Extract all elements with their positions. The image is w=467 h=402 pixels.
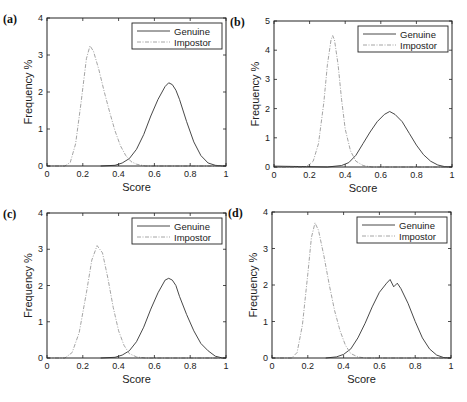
subplot-c: 00.20.40.60.8101234ScoreFrequency %(c)Ge…	[3, 207, 229, 385]
y-tick-label: 1	[265, 133, 270, 143]
panel-label: (a)	[3, 12, 17, 26]
x-tick-label: 0	[271, 170, 276, 180]
x-tick-label: 0.8	[409, 361, 422, 371]
x-tick-label: 0.2	[303, 170, 316, 180]
x-tick-label: 0	[269, 361, 274, 371]
legend: GenuineImpostor	[357, 217, 447, 243]
y-axis-label: Frequency %	[22, 253, 34, 318]
panel-label: (b)	[230, 15, 245, 29]
x-tick-label: 1	[223, 169, 228, 179]
x-axis-label: Score	[122, 373, 151, 385]
legend-entry: Impostor	[400, 40, 437, 51]
y-tick-label: 2	[38, 87, 43, 97]
legend-entry: Impostor	[399, 231, 436, 242]
x-tick-label: 0.6	[148, 361, 161, 371]
y-tick-label: 0	[38, 161, 43, 171]
y-tick-label: 3	[265, 74, 270, 84]
y-tick-label: 3	[263, 244, 268, 254]
x-tick-label: 1	[449, 170, 454, 180]
legend-entry: Impostor	[174, 232, 211, 243]
impostor-curve	[47, 46, 226, 166]
legend-entry: Genuine	[174, 26, 210, 37]
y-tick-label: 2	[265, 104, 270, 114]
y-tick-label: 4	[265, 45, 270, 55]
y-tick-label: 4	[38, 208, 43, 218]
genuine-curve	[101, 83, 226, 166]
x-tick-label: 0.6	[148, 169, 161, 179]
y-tick-label: 3	[38, 50, 43, 60]
legend: GenuineImpostor	[132, 23, 222, 49]
x-tick-label: 0.8	[410, 170, 423, 180]
x-tick-label: 0.2	[77, 169, 90, 179]
x-tick-label: 0.4	[112, 169, 125, 179]
legend-entry: Genuine	[399, 220, 435, 231]
x-tick-label: 0.6	[373, 361, 386, 371]
legend: GenuineImpostor	[358, 26, 448, 52]
legend: GenuineImpostor	[132, 218, 222, 244]
legend-entry: Genuine	[400, 29, 436, 40]
x-tick-label: 1	[223, 361, 228, 371]
x-tick-label: 1	[448, 361, 453, 371]
panel-label: (d)	[228, 206, 243, 220]
subplot-d: 00.20.40.60.8101234ScoreFrequency %(d)Ge…	[228, 206, 454, 385]
y-tick-label: 3	[38, 244, 43, 254]
subplot-b: 00.20.40.60.81012345ScoreFrequency %(b)G…	[230, 15, 455, 194]
x-axis-label: Score	[347, 373, 376, 385]
y-tick-label: 4	[263, 207, 268, 217]
y-tick-label: 5	[265, 16, 270, 26]
y-tick-label: 1	[263, 317, 268, 327]
y-axis-label: Frequency %	[22, 59, 34, 124]
y-tick-label: 0	[263, 353, 268, 363]
x-tick-label: 0.4	[337, 361, 350, 371]
x-axis-label: Score	[349, 182, 378, 194]
y-axis-label: Frequency %	[247, 252, 259, 317]
y-tick-label: 0	[38, 353, 43, 363]
x-tick-label: 0	[44, 169, 49, 179]
genuine-curve	[274, 112, 452, 168]
x-tick-label: 0.2	[77, 361, 90, 371]
y-tick-label: 4	[38, 13, 43, 23]
y-tick-label: 1	[38, 317, 43, 327]
x-axis-label: Score	[122, 181, 151, 193]
legend-entry: Genuine	[174, 221, 210, 232]
impostor-curve	[274, 36, 452, 167]
y-axis-label: Frequency %	[249, 61, 261, 126]
y-tick-label: 2	[38, 281, 43, 291]
x-tick-label: 0.4	[112, 361, 125, 371]
legend-entry: Impostor	[174, 37, 211, 48]
x-tick-label: 0.2	[302, 361, 315, 371]
y-tick-label: 0	[265, 162, 270, 172]
x-tick-label: 0.4	[339, 170, 352, 180]
genuine-curve	[101, 278, 226, 358]
x-tick-label: 0.8	[184, 361, 197, 371]
panel-label: (c)	[3, 207, 16, 221]
y-tick-label: 1	[38, 124, 43, 134]
figure-canvas: 00.20.40.60.8101234ScoreFrequency %(a)Ge…	[0, 0, 467, 402]
subplot-a: 00.20.40.60.8101234ScoreFrequency %(a)Ge…	[3, 12, 229, 193]
genuine-curve	[326, 280, 451, 359]
y-tick-label: 2	[263, 280, 268, 290]
x-tick-label: 0	[44, 361, 49, 371]
x-tick-label: 0.8	[184, 169, 197, 179]
x-tick-label: 0.6	[375, 170, 388, 180]
